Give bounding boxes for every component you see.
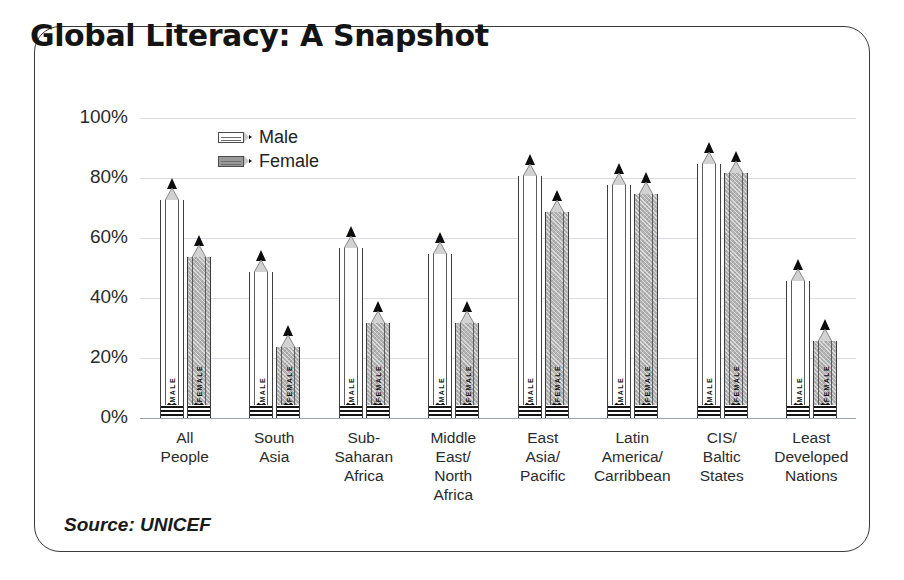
pencil-ferrule — [249, 405, 273, 418]
pencil-shaft: FEMALE — [455, 323, 479, 418]
bar-group: MALEFEMALE — [604, 0, 660, 418]
x-axis-line — [140, 418, 856, 419]
x-axis-label-line: Middle — [409, 428, 499, 447]
x-axis-label: EastAsia/Pacific — [498, 428, 588, 485]
pencil-shaft: FEMALE — [634, 194, 658, 418]
bar-pencil-female: FEMALE — [187, 0, 211, 418]
bar-pencil-female: FEMALE — [366, 0, 390, 418]
bar-group: MALEFEMALE — [783, 0, 839, 418]
bar-group: MALEFEMALE — [336, 0, 392, 418]
pencil-ferrule — [607, 405, 631, 418]
y-axis-tick-label: 20% — [66, 346, 128, 368]
legend-item-female[interactable]: Female — [218, 150, 319, 172]
pencil-shaft: MALE — [786, 281, 810, 418]
bar-pencil-male: MALE — [160, 0, 184, 418]
bar-pencil-male: MALE — [697, 0, 721, 418]
bar-pencil-female: FEMALE — [455, 0, 479, 418]
y-axis-tick-label: 80% — [66, 166, 128, 188]
bar-group: MALEFEMALE — [515, 0, 571, 418]
pencil-ferrule — [724, 405, 748, 418]
x-axis-label-line: Sub- — [319, 428, 409, 447]
bar-group: MALEFEMALE — [694, 0, 750, 418]
pencil-ferrule — [813, 405, 837, 418]
pencil-ferrule — [455, 405, 479, 418]
x-axis-label-line: Saharan — [319, 447, 409, 466]
pencil-ferrule — [786, 405, 810, 418]
pencil-shaft: MALE — [249, 272, 273, 418]
x-axis-label-line: Developed — [767, 447, 857, 466]
x-axis-label: LeastDevelopedNations — [767, 428, 857, 485]
x-axis-label-line: Asia/ — [498, 447, 588, 466]
pencil-shaft: MALE — [339, 248, 363, 418]
x-axis-label-line: Africa — [319, 466, 409, 485]
pencil-ferrule — [518, 405, 542, 418]
bar-pencil-female: FEMALE — [813, 0, 837, 418]
x-axis-label-line: Baltic — [677, 447, 767, 466]
x-axis-label-line: Africa — [409, 485, 499, 504]
bar-pencil-male: MALE — [249, 0, 273, 418]
pencil-ferrule — [634, 405, 658, 418]
x-axis-label: Sub-SaharanAfrica — [319, 428, 409, 485]
x-axis-label-line: Nations — [767, 466, 857, 485]
pencil-shaft: FEMALE — [545, 212, 569, 418]
chart-legend: Male Female — [218, 126, 319, 174]
pencil-ferrule — [276, 405, 300, 418]
x-axis-label-line: Carribbean — [588, 466, 678, 485]
x-axis-label: SouthAsia — [230, 428, 320, 466]
bar-pencil-female: FEMALE — [724, 0, 748, 418]
bar-pencil-male: MALE — [339, 0, 363, 418]
pencil-shaft: MALE — [697, 164, 721, 418]
x-axis-label-line: People — [140, 447, 230, 466]
x-axis-label-line: Pacific — [498, 466, 588, 485]
bar-pencil-male: MALE — [607, 0, 631, 418]
pencil-shaft: MALE — [428, 254, 452, 418]
pencil-ferrule — [697, 405, 721, 418]
x-axis-label: MiddleEast/NorthAfrica — [409, 428, 499, 504]
x-axis-label-line: All — [140, 428, 230, 447]
x-axis-label-line: East/ — [409, 447, 499, 466]
x-axis-label: AllPeople — [140, 428, 230, 466]
pencil-ferrule — [366, 405, 390, 418]
pencil-hatched-icon — [218, 156, 252, 167]
pencil-shaft: MALE — [607, 185, 631, 418]
pencil-shaft: FEMALE — [366, 323, 390, 418]
bar-group: MALEFEMALE — [425, 0, 481, 418]
x-axis-label-line: South — [230, 428, 320, 447]
source-note: Source: UNICEF — [64, 514, 211, 536]
x-axis-label-line: North — [409, 466, 499, 485]
y-axis-tick-label: 40% — [66, 286, 128, 308]
pencil-ferrule — [160, 405, 184, 418]
pencil-ferrule — [545, 405, 569, 418]
y-axis-tick-label: 0% — [66, 406, 128, 428]
x-axis-label: CIS/BalticStates — [677, 428, 767, 485]
pencil-shaft: MALE — [518, 176, 542, 418]
bar-pencil-female: FEMALE — [634, 0, 658, 418]
bar-pencil-female: FEMALE — [545, 0, 569, 418]
y-axis-tick-label: 60% — [66, 226, 128, 248]
bar-pencil-male: MALE — [428, 0, 452, 418]
pencil-ferrule — [428, 405, 452, 418]
pencil-outline-icon — [218, 132, 252, 143]
x-axis-label-line: Least — [767, 428, 857, 447]
legend-label-female: Female — [259, 151, 319, 172]
legend-item-male[interactable]: Male — [218, 126, 319, 148]
bar-group: MALEFEMALE — [157, 0, 213, 418]
y-axis-tick-label: 100% — [66, 106, 128, 128]
pencil-ferrule — [339, 405, 363, 418]
pencil-shaft: FEMALE — [187, 257, 211, 418]
x-axis-label: LatinAmerica/Carribbean — [588, 428, 678, 485]
chart-plot-area: 100%80%60%40%20%0% MALEFEMALEMALEFEMALEM… — [0, 0, 904, 580]
x-axis-label-line: America/ — [588, 447, 678, 466]
bar-pencil-male: MALE — [786, 0, 810, 418]
pencil-shaft: MALE — [160, 200, 184, 418]
pencil-ferrule — [187, 405, 211, 418]
pencil-shaft: FEMALE — [724, 173, 748, 418]
bar-pencil-female: FEMALE — [276, 0, 300, 418]
x-axis-label-line: States — [677, 466, 767, 485]
x-axis-label-line: East — [498, 428, 588, 447]
bar-group: MALEFEMALE — [246, 0, 302, 418]
legend-label-male: Male — [259, 127, 298, 148]
x-axis-label-line: CIS/ — [677, 428, 767, 447]
x-axis-label-line: Latin — [588, 428, 678, 447]
bar-pencil-male: MALE — [518, 0, 542, 418]
